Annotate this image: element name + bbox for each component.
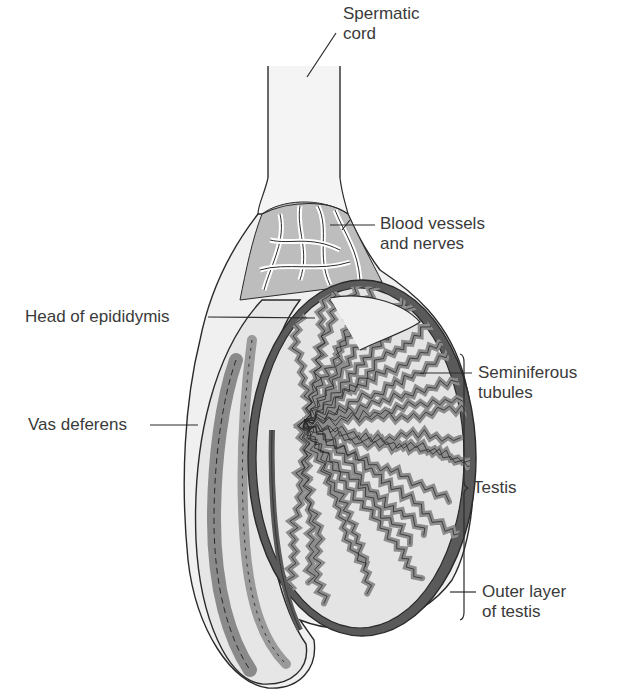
label-blood-vessels: Blood vessels and nerves (380, 214, 485, 254)
label-testis: Testis (473, 478, 516, 498)
label-spermatic-cord: Spermatic cord (343, 4, 420, 44)
label-vas-deferens: Vas deferens (28, 415, 127, 435)
label-outer-layer: Outer layer of testis (482, 582, 566, 622)
label-seminiferous-tubules: Seminiferous tubules (478, 363, 577, 403)
label-head-epididymis: Head of epididymis (25, 307, 170, 327)
testis-diagram: Spermatic cord Blood vessels and nerves … (0, 0, 623, 691)
spermatic-cord (258, 66, 348, 214)
